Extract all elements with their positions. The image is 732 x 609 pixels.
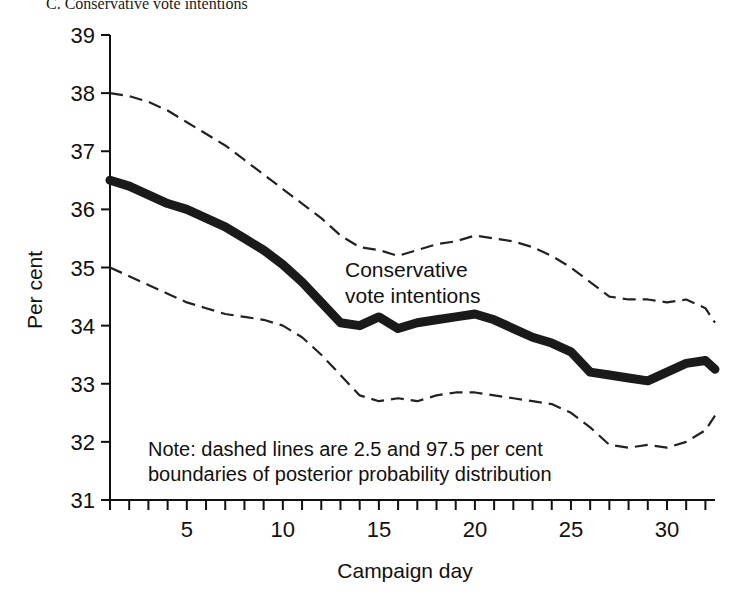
y-tick-label: 37: [71, 139, 95, 164]
x-tick-label: 15: [367, 517, 391, 542]
y-tick-label: 35: [71, 256, 95, 281]
y-tick-label: 34: [71, 314, 95, 339]
x-tick-label: 5: [181, 517, 193, 542]
y-tick-label: 33: [71, 372, 95, 397]
chart-plot-area: 313233343536373839 51015202530 Per cent …: [0, 0, 732, 609]
series-label-line2: vote intentions: [345, 284, 480, 307]
x-axis: 51015202530: [110, 500, 715, 542]
x-axis-title: Campaign day: [337, 559, 473, 582]
y-tick-label: 36: [71, 197, 95, 222]
note-line2: boundaries of posterior probability dist…: [148, 463, 552, 485]
y-axis: 313233343536373839: [71, 23, 110, 513]
y-tick-label: 38: [71, 81, 95, 106]
y-tick-label: 32: [71, 430, 95, 455]
note-line1: Note: dashed lines are 2.5 and 97.5 per …: [148, 438, 543, 460]
x-tick-label: 30: [655, 517, 679, 542]
y-axis-title: Per cent: [23, 251, 46, 329]
x-tick-label: 10: [271, 517, 295, 542]
chart-svg: 313233343536373839 51015202530 Per cent …: [0, 0, 732, 609]
series-label-line1: Conservative: [345, 258, 468, 281]
x-tick-label: 20: [463, 517, 487, 542]
y-tick-label: 31: [71, 488, 95, 513]
x-tick-label: 25: [559, 517, 583, 542]
y-tick-label: 39: [71, 23, 95, 48]
